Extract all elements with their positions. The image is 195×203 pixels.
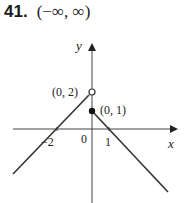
x-axis-label: x (167, 136, 174, 151)
open-point (89, 89, 95, 95)
tick-label-neg-two: −2 (41, 135, 54, 149)
closed-point (89, 108, 95, 114)
open-point-label: (0, 2) (52, 85, 78, 99)
closed-point-label: (0, 1) (100, 103, 126, 117)
right-line (92, 111, 168, 192)
piecewise-graph: y x (0, 2) (0, 1) −2 0 1 (0, 0, 195, 203)
tick-label-one: 1 (105, 135, 111, 149)
y-axis-label: y (74, 38, 82, 53)
origin-label: 0 (81, 132, 87, 146)
